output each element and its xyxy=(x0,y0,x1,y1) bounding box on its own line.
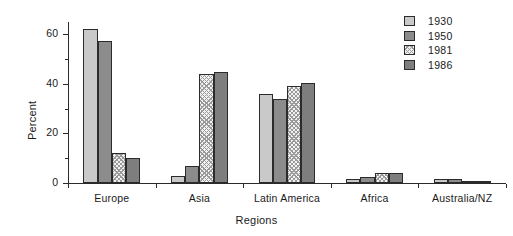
y-tick-label: 0 xyxy=(12,176,58,188)
y-tick-label: 20 xyxy=(12,126,58,138)
y-tick-label: 40 xyxy=(12,77,58,89)
bar-australia-nz-1981 xyxy=(462,181,476,183)
legend-swatch-icon-1950 xyxy=(404,31,415,41)
bar-asia-1950 xyxy=(185,166,199,183)
y-tick-label: 60 xyxy=(12,27,58,39)
x-tick xyxy=(331,184,332,188)
category-label-asia: Asia xyxy=(189,192,210,204)
category-label-latin-america: Latin America xyxy=(254,192,320,204)
bar-asia-1986 xyxy=(214,72,228,183)
legend-item-1950[interactable]: 1950 xyxy=(404,29,504,44)
bar-latin-america-1986 xyxy=(301,83,315,183)
legend: 1930195019811986 xyxy=(404,14,504,72)
legend-label: 1950 xyxy=(428,30,453,42)
legend-item-1930[interactable]: 1930 xyxy=(404,14,504,29)
legend-swatch-icon-1981 xyxy=(404,45,415,55)
bar-africa-1986 xyxy=(389,173,403,183)
bar-africa-1950 xyxy=(360,177,374,183)
bar-africa-1981 xyxy=(375,173,389,183)
x-tick xyxy=(68,184,69,188)
bar-latin-america-1950 xyxy=(273,99,287,183)
category-label-australia-nz: Australia/NZ xyxy=(432,192,492,204)
bar-europe-1930 xyxy=(83,29,97,183)
bar-europe-1950 xyxy=(98,41,112,183)
bar-europe-1981 xyxy=(112,153,126,183)
legend-label: 1930 xyxy=(428,15,453,27)
bar-asia-1981 xyxy=(199,74,213,183)
bar-europe-1986 xyxy=(126,158,140,183)
x-axis-title: Regions xyxy=(0,214,513,226)
bar-africa-1930 xyxy=(346,179,360,183)
y-axis-title: Percent xyxy=(26,0,40,140)
bar-australia-nz-1986 xyxy=(476,181,490,183)
legend-swatch-icon-1986 xyxy=(404,60,415,70)
bar-latin-america-1981 xyxy=(287,86,301,183)
x-axis-line xyxy=(68,183,506,184)
x-tick xyxy=(418,184,419,188)
legend-label: 1981 xyxy=(428,44,453,56)
category-label-africa: Africa xyxy=(361,192,389,204)
x-tick xyxy=(243,184,244,188)
bar-chart: Percent 0204060 EuropeAsiaLatin AmericaA… xyxy=(0,0,513,236)
category-label-europe: Europe xyxy=(94,192,129,204)
bar-latin-america-1930 xyxy=(259,94,273,183)
legend-swatch-icon-1930 xyxy=(404,16,415,26)
bar-australia-nz-1930 xyxy=(434,179,448,183)
x-tick xyxy=(506,184,507,188)
legend-label: 1986 xyxy=(428,59,453,71)
bar-australia-nz-1950 xyxy=(448,179,462,183)
x-tick xyxy=(156,184,157,188)
legend-item-1981[interactable]: 1981 xyxy=(404,43,504,58)
bar-asia-1930 xyxy=(171,176,185,183)
legend-item-1986[interactable]: 1986 xyxy=(404,58,504,73)
